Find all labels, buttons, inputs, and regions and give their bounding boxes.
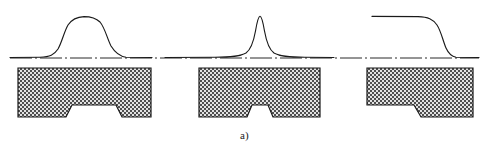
narrow-notch-cross-section xyxy=(199,68,320,117)
wide-notch-cross-section xyxy=(18,68,151,117)
sharp-peak-profile-curve xyxy=(165,16,334,57)
figure-container: a) xyxy=(0,0,489,153)
panel-middle xyxy=(165,16,334,117)
panel-right xyxy=(367,16,479,117)
figure-caption: a) xyxy=(0,129,489,141)
step-edge-cross-section xyxy=(367,68,473,117)
broad-plateau-profile-curve xyxy=(10,17,152,58)
step-edge-profile-curve xyxy=(372,16,479,57)
panel-left xyxy=(10,17,152,117)
